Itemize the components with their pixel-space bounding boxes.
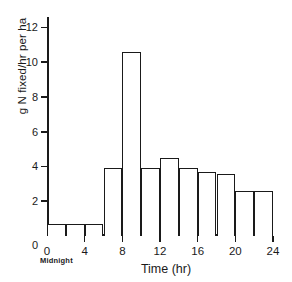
x-tick-label: 24 (267, 245, 280, 257)
x-tick-4: 4 (84, 236, 86, 242)
bar (122, 52, 141, 236)
bar (235, 191, 254, 236)
bar (85, 224, 104, 236)
y-tick-4: 4 (41, 166, 47, 168)
chart-figure: g N fixed/hr per ha 246810120 0481216202… (0, 0, 292, 282)
bar (254, 191, 273, 236)
x-tick-label: 20 (229, 245, 242, 257)
x-tick-label: 8 (119, 245, 125, 257)
y-origin-label: 0 (32, 239, 38, 251)
x-tick-label: 16 (191, 245, 204, 257)
y-tick-label: 2 (32, 195, 38, 207)
bar (179, 168, 198, 236)
bar (47, 224, 66, 236)
y-tick-label: 4 (32, 160, 38, 172)
y-tick-label: 6 (32, 126, 38, 138)
y-tick-label: 8 (32, 91, 38, 103)
bar (104, 168, 123, 236)
y-tick-label: 12 (26, 21, 38, 33)
y-tick-8: 8 (41, 96, 47, 98)
y-tick-6: 6 (41, 131, 47, 133)
bar (160, 158, 179, 236)
y-tick-10: 10 (41, 61, 47, 63)
x-tick-label: 12 (154, 245, 167, 257)
x-tick-24: 24 (272, 236, 274, 242)
bar (66, 224, 85, 236)
x-tick-label: 4 (81, 245, 87, 257)
x-tick-20: 20 (235, 236, 237, 242)
bar (141, 168, 160, 236)
y-tick-12: 12 (41, 27, 47, 29)
y-axis-line (47, 17, 49, 236)
y-tick-2: 2 (41, 200, 47, 202)
plot-area: 246810120 04812162024 (47, 17, 273, 236)
bar (217, 174, 236, 236)
y-tick-label: 10 (26, 56, 38, 68)
x-axis-title: Time (hr) (0, 262, 292, 276)
bar (198, 172, 217, 236)
x-tick-12: 12 (159, 236, 161, 242)
x-tick-8: 8 (122, 236, 124, 242)
x-tick-16: 16 (197, 236, 199, 242)
